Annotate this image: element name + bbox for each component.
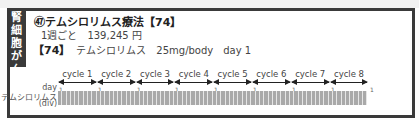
- double-arrow-icon: [253, 82, 290, 83]
- cycle-1: cycle 1: [58, 69, 97, 89]
- category-char: 腎: [11, 11, 22, 24]
- category-char: 胞: [11, 37, 22, 50]
- double-arrow-icon: [214, 82, 251, 83]
- regimen-cost: 1週ごと139,245 円: [41, 27, 142, 42]
- cycle-label: cycle 5: [213, 69, 252, 79]
- cycle-label: cycle 8: [330, 69, 369, 79]
- cycle-label: cycle 7: [291, 69, 330, 79]
- top-band: [0, 0, 419, 8]
- category-char: ん: [11, 63, 22, 76]
- drug-dose: 25mg/body: [156, 45, 213, 56]
- category-sidebar: 腎 細 胞 が ん: [7, 8, 26, 67]
- drug-tag: 【74】: [33, 44, 70, 57]
- double-arrow-icon: [175, 82, 212, 83]
- category-char: 細: [11, 24, 22, 37]
- drug-day: day 1: [223, 45, 251, 56]
- double-arrow-icon: [331, 82, 368, 83]
- cycle-timeline: cycle 1 cycle 2 cycle 3 cycle 4 cycle 5 …: [58, 69, 378, 89]
- cycle-label: cycle 6: [252, 69, 291, 79]
- route-row-label: (div): [39, 99, 57, 108]
- double-arrow-icon: [59, 82, 96, 83]
- double-arrow-icon: [98, 82, 135, 83]
- cycle-5: cycle 5: [213, 69, 252, 89]
- cycle-label: cycle 1: [58, 69, 97, 79]
- cycle-2: cycle 2: [97, 69, 136, 89]
- cycle-8: cycle 8: [330, 69, 369, 89]
- drug-line: 【74】テムシロリムス25mg/bodyday 1: [33, 41, 251, 57]
- cycle-label: cycle 3: [136, 69, 175, 79]
- drug-name: テムシロリムス: [76, 45, 146, 56]
- double-arrow-icon: [137, 82, 174, 83]
- cycle-6: cycle 6: [252, 69, 291, 89]
- cost-interval: 1週ごと: [41, 30, 77, 41]
- day-tick: 1: [370, 86, 374, 93]
- dose-bar: [363, 91, 367, 105]
- cycle-3: cycle 3: [136, 69, 175, 89]
- cycle-label: cycle 2: [97, 69, 136, 79]
- cycle-4: cycle 4: [174, 69, 213, 89]
- double-arrow-icon: [292, 82, 329, 83]
- category-char: が: [11, 50, 22, 63]
- cost-value: 139,245 円: [87, 30, 142, 41]
- cycle-7: cycle 7: [291, 69, 330, 89]
- cycle-label: cycle 4: [174, 69, 213, 79]
- dosing-bars: [58, 91, 367, 105]
